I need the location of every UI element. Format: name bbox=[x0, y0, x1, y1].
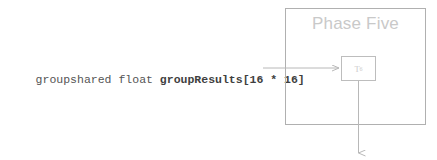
groupshared-declaration: groupshared float groupResults[16 * 16] bbox=[8, 59, 305, 101]
thread-box-label: T6 bbox=[341, 56, 376, 81]
declaration-plain-text: groupshared float bbox=[36, 73, 160, 86]
phase-five-diagram: groupshared float groupResults[16 * 16] … bbox=[0, 0, 437, 160]
declaration-bold-text: groupResults[16 * 16] bbox=[160, 73, 305, 86]
phase-five-title: Phase Five bbox=[285, 14, 426, 34]
thread-label-subscript: 6 bbox=[360, 66, 363, 72]
